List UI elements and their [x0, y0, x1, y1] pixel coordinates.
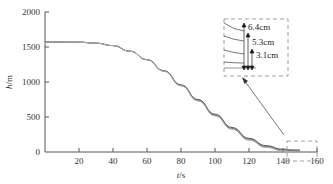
x-tick-label: 80	[177, 156, 187, 166]
arrow-head-icon	[242, 77, 248, 84]
x-tick-label: 20	[75, 156, 85, 166]
x-tick-label: 100	[208, 156, 222, 166]
x-tick-label: 120	[242, 156, 256, 166]
y-tick-label: 0	[36, 147, 41, 157]
inset-label-5-3: 5.3cm	[252, 37, 274, 47]
y-tick-label: 2000	[22, 7, 41, 17]
inset-label-6-4: 6.4cm	[248, 22, 270, 32]
y-tick-label: 1000	[22, 77, 41, 87]
zoom-arrow	[244, 80, 284, 135]
y-axis-label: h/m	[4, 75, 14, 89]
inset-label-3-1: 3.1cm	[256, 50, 278, 60]
y-tick-label: 1500	[22, 42, 41, 52]
y-tick-label: 500	[27, 112, 41, 122]
x-tick-label: 60	[143, 156, 153, 166]
x-tick-label: 40	[109, 156, 119, 166]
chart-canvas: 2000 1500 1000 500 0 20 40 60 80 100 120…	[0, 0, 333, 184]
x-axis-label: t/s	[177, 170, 186, 180]
